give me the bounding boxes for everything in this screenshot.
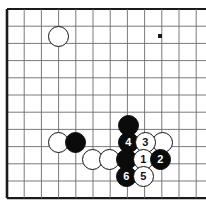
- move-stone-2: 2: [150, 149, 171, 170]
- stone-move-number: 4: [125, 137, 131, 148]
- stone-move-number: 3: [142, 137, 148, 148]
- stone-move-number: 5: [140, 171, 146, 182]
- stone-move-number: 2: [157, 154, 163, 165]
- stone-white: [48, 26, 69, 47]
- stone-black: [65, 132, 86, 153]
- stone-move-number: 1: [140, 154, 146, 165]
- star-point: [158, 34, 162, 38]
- board-grid: [0, 0, 206, 202]
- stone-move-number: 6: [123, 171, 129, 182]
- go-board-diagram: 431265: [0, 0, 206, 202]
- move-stone-5: 5: [133, 166, 154, 187]
